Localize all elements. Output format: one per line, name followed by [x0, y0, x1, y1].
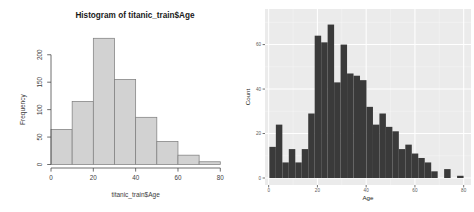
histogram-bar: [199, 162, 220, 165]
histogram-bar: [431, 171, 437, 178]
x-tick-label: 0: [49, 174, 53, 181]
histogram-bar: [412, 154, 418, 178]
histogram-bar: [373, 125, 379, 178]
histogram-bar: [341, 45, 347, 178]
x-tick-label: 40: [132, 174, 140, 181]
histogram-bar: [418, 158, 424, 178]
y-tick-label: 50: [36, 133, 43, 141]
x-tick-label: 20: [90, 174, 98, 181]
histogram-bar: [302, 149, 308, 178]
histogram-bar: [289, 149, 295, 178]
histogram-bar: [379, 114, 385, 178]
histogram-bar: [425, 162, 431, 178]
y-tick-label: 150: [36, 76, 43, 87]
histogram-bar: [72, 101, 93, 164]
histogram-bar: [51, 129, 72, 164]
y-tick-label: 40: [256, 87, 262, 92]
histogram-bar: [354, 76, 360, 178]
y-axis-title: Count: [244, 88, 251, 105]
chart-title: Histogram of titanic_train$Age: [75, 11, 195, 20]
histogram-bar: [386, 127, 392, 178]
histogram-bar: [136, 117, 157, 164]
y-axis-title: Frequency: [19, 94, 27, 125]
histogram-bar: [114, 79, 135, 164]
histogram-bar: [269, 147, 275, 178]
y-tick-label: 100: [36, 104, 43, 115]
histogram-bar: [93, 38, 114, 164]
histogram-bar: [321, 42, 327, 178]
x-tick-label: 0: [267, 188, 270, 193]
histogram-bar: [399, 149, 405, 178]
x-tick-label: 20: [315, 188, 321, 193]
x-tick-label: 60: [412, 188, 418, 193]
y-tick-label: 20: [256, 131, 262, 136]
x-tick-label: 60: [174, 174, 182, 181]
histogram-bar: [334, 82, 340, 178]
y-tick-label: 200: [36, 49, 43, 60]
x-tick-label: 80: [461, 188, 467, 193]
x-tick-label: 80: [217, 174, 225, 181]
ggplot-histogram-chart: 0204060800204060AgeCount: [237, 0, 474, 212]
histogram-bar: [276, 125, 282, 178]
histogram-bar: [157, 141, 178, 164]
histogram-bar: [360, 80, 366, 178]
histogram-bar: [366, 107, 372, 178]
histogram-bar: [178, 155, 199, 164]
ggplot-histogram-figure: 0204060800204060AgeCount: [237, 0, 474, 212]
x-tick-label: 40: [364, 188, 370, 193]
y-tick-label: 0: [36, 162, 43, 166]
histogram-bar: [405, 145, 411, 178]
y-tick-label: 0: [258, 176, 261, 181]
histogram-bar: [347, 73, 353, 178]
histogram-bar: [315, 36, 321, 178]
base-r-histogram-figure: Histogram of titanic_train$Age0501001502…: [0, 0, 237, 212]
histogram-bar: [457, 176, 463, 178]
base-r-histogram-chart: Histogram of titanic_train$Age0501001502…: [0, 0, 237, 212]
x-axis-title: titanic_train$Age: [111, 191, 160, 199]
histogram-bar: [392, 131, 398, 178]
x-axis-title: Age: [362, 194, 374, 201]
histogram-bar: [328, 25, 334, 178]
histogram-bar: [444, 169, 450, 178]
histogram-bar: [308, 114, 314, 178]
histogram-bar: [295, 162, 301, 178]
screenshot-canvas: { "page": { "background": "#ffffff", "de…: [0, 0, 474, 212]
histogram-bar: [282, 162, 288, 178]
y-tick-label: 60: [256, 42, 262, 47]
